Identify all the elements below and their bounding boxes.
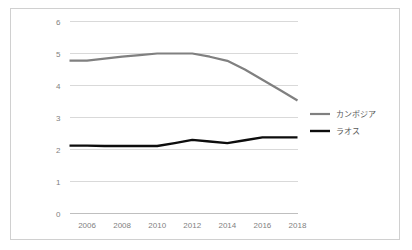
x-tick-label: 2010 — [148, 221, 166, 230]
y-tick-label: 5 — [56, 50, 61, 59]
x-tick-label: 2016 — [254, 221, 272, 230]
legend-label: カンボジア — [336, 110, 376, 119]
line-chart: 0123456 2006200820102012201420162018 カンボ… — [0, 0, 412, 250]
y-tick-label: 1 — [56, 178, 61, 187]
y-tick-label: 2 — [56, 146, 61, 155]
x-tick-label: 2008 — [113, 221, 131, 230]
x-axis-tick-labels: 2006200820102012201420162018 — [78, 221, 307, 230]
y-tick-label: 6 — [56, 18, 61, 27]
x-tick-label: 2006 — [78, 221, 96, 230]
series-line — [70, 54, 298, 101]
data-series — [70, 54, 298, 146]
x-tick-label: 2014 — [218, 221, 236, 230]
x-tick-label: 2018 — [289, 221, 307, 230]
gridlines — [70, 22, 298, 214]
y-tick-label: 4 — [56, 82, 61, 91]
x-tick-label: 2012 — [183, 221, 201, 230]
y-axis-tick-labels: 0123456 — [56, 18, 61, 219]
series-line — [70, 137, 298, 146]
legend-label: ラオス — [336, 127, 360, 136]
y-tick-label: 0 — [56, 210, 61, 219]
y-tick-label: 3 — [56, 114, 61, 123]
chart-legend: カンボジアラオス — [310, 110, 376, 136]
